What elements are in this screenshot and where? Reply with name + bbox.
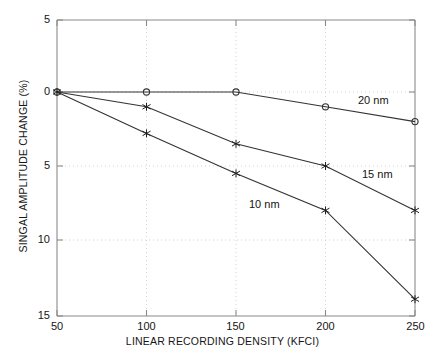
x-tick-label-3: 200 bbox=[310, 320, 341, 332]
y-axis-title: SINGAL AMPLITUDE CHANGE (%) bbox=[17, 51, 29, 281]
y-tick-label-2: 5 bbox=[28, 159, 50, 171]
y-tick-label-0: 5 bbox=[28, 13, 50, 25]
y-tick-label-3: 10 bbox=[28, 233, 50, 245]
chart-figure: 5 0 5 10 15 50 100 150 200 250 LINEAR RE… bbox=[0, 0, 445, 358]
series-annotation-10nm: 10 nm bbox=[249, 198, 280, 210]
series-annotation-15nm: 15 nm bbox=[362, 168, 393, 180]
x-tick-label-0: 50 bbox=[44, 320, 70, 332]
x-tick-label-4: 250 bbox=[400, 320, 431, 332]
x-tick-label-2: 150 bbox=[220, 320, 251, 332]
y-tick-label-1: 0 bbox=[28, 85, 50, 97]
series-annotation-20nm: 20 nm bbox=[358, 94, 389, 106]
x-axis-title: LINEAR RECORDING DENSITY (KFCI) bbox=[0, 335, 445, 347]
x-tick-label-1: 100 bbox=[131, 320, 162, 332]
